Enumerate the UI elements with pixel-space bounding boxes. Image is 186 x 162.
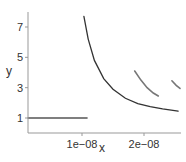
y-tick-label: 7 (17, 21, 23, 33)
series-line-segment-3 (172, 81, 180, 89)
x-tick-label: 2e−08 (129, 138, 160, 150)
y-tick-label: 1 (17, 112, 23, 124)
y-axis-label: y (6, 64, 12, 78)
series-line-segment-2 (135, 71, 159, 96)
y-tick-label: 3 (17, 82, 23, 94)
x-tick-label: 1e−08 (67, 138, 98, 150)
chart: 1357 1e−082e−08 y x (0, 0, 186, 162)
x-axis-label: x (99, 141, 105, 155)
y-tick-label: 5 (17, 51, 23, 63)
series-line-main-curve (84, 16, 178, 111)
